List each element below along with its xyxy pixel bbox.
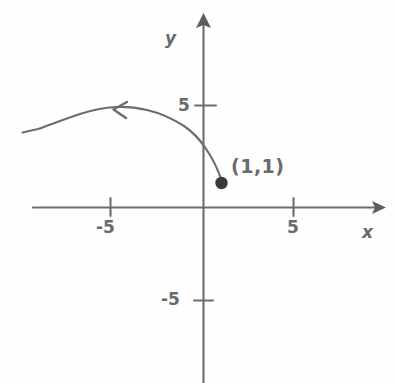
y-axis xyxy=(194,13,216,383)
y-axis-label: y xyxy=(165,28,176,48)
solution-curve-group xyxy=(23,102,222,180)
point-marker-1-1 xyxy=(215,177,227,189)
y-tick-label-negative-5: -5 xyxy=(161,289,180,309)
y-tick-label-positive-5: 5 xyxy=(178,95,190,115)
point-coordinate-label: (1,1) xyxy=(231,155,285,177)
x-tick-label-negative-5: -5 xyxy=(96,217,115,237)
x-tick-label-positive-5: 5 xyxy=(287,217,299,237)
x-axis xyxy=(33,198,386,216)
curve-direction-arrow-icon xyxy=(114,102,128,118)
solution-curve xyxy=(23,107,222,180)
coordinate-plane-svg xyxy=(0,0,394,383)
x-axis-label: x xyxy=(362,222,373,242)
graph-figure: y x 5 -5 -5 5 (1,1) xyxy=(0,0,394,383)
